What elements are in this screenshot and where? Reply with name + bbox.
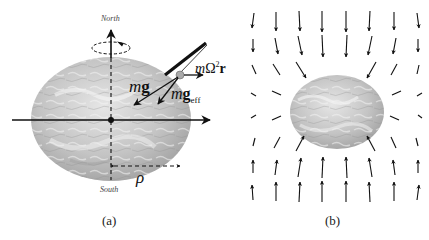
- mg-label: mg: [129, 77, 150, 97]
- caption-b: (b): [325, 213, 340, 229]
- center-point: [108, 117, 114, 123]
- panel-b: [251, 11, 422, 202]
- mg-eff-label: mgeff: [171, 85, 200, 105]
- cf-r: r: [220, 61, 226, 76]
- caption-a: (a): [102, 213, 116, 229]
- mgeff-m: m: [171, 85, 183, 102]
- mgeff-g: g: [183, 85, 191, 102]
- diagram-canvas: [0, 0, 429, 240]
- north-label: North: [101, 14, 120, 23]
- mg-g: g: [141, 77, 150, 96]
- panel-a: [12, 30, 210, 181]
- cf-m: m: [195, 61, 205, 76]
- cf-omega: Ω: [205, 61, 215, 76]
- south-label: South: [100, 185, 118, 194]
- mgeff-sub: eff: [191, 95, 201, 105]
- centrifugal-label: mΩ2r: [195, 60, 226, 77]
- mg-m: m: [129, 77, 141, 96]
- rho-label: ρ: [136, 168, 144, 188]
